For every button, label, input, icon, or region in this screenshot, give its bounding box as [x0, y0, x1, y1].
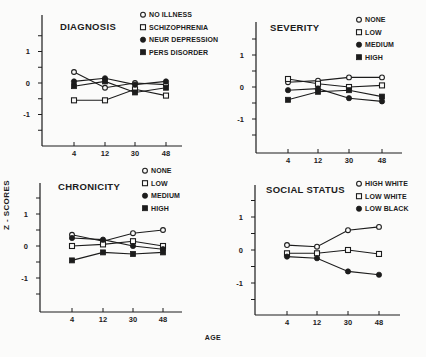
data-point-none: [380, 75, 385, 80]
legend: NO ILLNESSSCHIZOPHRENIANEUR DEPRESSIONPE…: [140, 11, 218, 56]
data-point-low: [380, 83, 385, 88]
data-point-high: [161, 250, 166, 255]
data-point-high: [70, 258, 75, 263]
x-tick-label: 4: [70, 315, 75, 324]
data-point-high-white: [377, 225, 382, 230]
x-tick-label: 48: [162, 149, 170, 158]
y-tick-label: -1: [237, 115, 244, 124]
series-line-low: [288, 79, 382, 87]
panel-severity: 10-14123048SEVERITYNONELOWMEDIUMHIGH: [237, 16, 402, 165]
figure: 10-14123048DIAGNOSISNO ILLNESSSCHIZOPHRE…: [0, 0, 426, 357]
data-point-medium: [285, 88, 290, 93]
series-line-none: [72, 230, 163, 241]
legend: HIGH WHITELOW WHITELOW BLACK: [356, 180, 408, 212]
y-axis-label: Z - SCORES: [2, 180, 11, 230]
legend-marker-none: [143, 168, 148, 173]
x-tick-label: 4: [286, 156, 291, 165]
panel-title: SEVERITY: [270, 22, 320, 33]
data-point-none: [161, 228, 166, 233]
legend-item-pers-disorder: PERS DISORDER: [141, 49, 209, 56]
legend: NONELOWMEDIUMHIGH: [142, 167, 180, 212]
y-tick-label: 0: [24, 242, 28, 251]
data-point-high-white: [346, 228, 351, 233]
legend-label: MEDIUM: [151, 192, 180, 199]
data-point-medium: [100, 237, 105, 242]
legend-label: LOW BLACK: [365, 205, 409, 212]
legend-marker-none: [357, 17, 362, 22]
data-point-schizophrenia: [103, 98, 108, 103]
legend-marker-high-white: [357, 181, 362, 186]
data-point-high: [347, 88, 352, 93]
legend-label: LOW WHITE: [365, 193, 407, 200]
legend-marker-no-illness: [141, 12, 146, 17]
legend-marker-low: [143, 181, 148, 186]
x-tick-label: 30: [129, 315, 137, 324]
data-point-no-illness: [72, 70, 77, 75]
legend-label: MEDIUM: [365, 41, 394, 48]
y-tick-label: 1: [24, 210, 28, 219]
data-point-medium: [379, 99, 384, 104]
x-tick-label: 12: [313, 318, 321, 327]
legend-label: LOW: [365, 29, 382, 36]
data-point-pers-disorder: [103, 79, 108, 84]
legend: NONELOWMEDIUMHIGH: [356, 16, 394, 61]
x-tick-label: 48: [378, 156, 386, 165]
legend-marker-neur-depression: [140, 37, 145, 42]
series-line-schizophrenia: [74, 89, 166, 100]
data-point-high: [380, 94, 385, 99]
legend-marker-high: [357, 55, 362, 60]
legend-marker-high: [143, 206, 148, 211]
y-tick-label: 0: [239, 246, 243, 255]
series-line-high: [72, 252, 163, 260]
legend-label: NEUR DEPRESSION: [149, 36, 218, 43]
data-point-schizophrenia: [72, 98, 77, 103]
data-point-neur-depression: [71, 79, 76, 84]
data-point-low-black: [314, 256, 319, 261]
data-point-low-white: [346, 248, 351, 253]
data-point-neur-depression: [132, 82, 137, 87]
legend-item-low-black: LOW BLACK: [356, 205, 408, 212]
legend-marker-low-white: [357, 194, 362, 199]
legend-label: LOW: [151, 180, 168, 187]
series-line-low-white: [287, 250, 379, 254]
data-point-low: [316, 81, 321, 86]
y-tick-label: -1: [236, 279, 243, 288]
panel-social-status: 10-14123048SOCIAL STATUSHIGH WHITELOW WH…: [236, 180, 408, 327]
data-point-low: [286, 77, 291, 82]
data-point-high-white: [315, 244, 320, 249]
data-point-high: [316, 89, 321, 94]
legend-marker-medium: [356, 42, 361, 47]
panel-diagnosis: 10-14123048DIAGNOSISNO ILLNESSSCHIZOPHRE…: [23, 11, 218, 158]
x-tick-label: 30: [344, 318, 352, 327]
x-tick-label: 12: [99, 315, 107, 324]
data-point-no-illness: [103, 85, 108, 90]
x-tick-label: 4: [72, 149, 77, 158]
data-point-low: [131, 239, 136, 244]
legend-item-no-illness: NO ILLNESS: [141, 11, 193, 18]
x-tick-label: 30: [131, 149, 139, 158]
data-point-low-white: [315, 251, 320, 256]
data-point-medium: [130, 243, 135, 248]
legend-item-medium: MEDIUM: [356, 41, 394, 48]
legend-label: SCHIZOPHRENIA: [149, 24, 208, 31]
y-tick-label: -1: [21, 274, 28, 283]
data-point-pers-disorder: [133, 90, 138, 95]
legend-item-high-white: HIGH WHITE: [357, 180, 409, 187]
x-tick-label: 12: [101, 149, 109, 158]
legend-label: HIGH: [151, 205, 169, 212]
data-point-low-white: [377, 251, 382, 256]
panel-title: DIAGNOSIS: [60, 21, 116, 32]
x-tick-label: 48: [375, 318, 383, 327]
y-tick-label: 1: [239, 213, 243, 222]
x-tick-label: 48: [159, 315, 167, 324]
data-point-schizophrenia: [164, 93, 169, 98]
legend-marker-pers-disorder: [141, 50, 146, 55]
legend-item-none: NONE: [143, 167, 172, 174]
x-tick-label: 12: [314, 156, 322, 165]
data-point-high-white: [285, 243, 290, 248]
x-axis-label: AGE: [205, 334, 221, 341]
legend-item-none: NONE: [357, 16, 386, 23]
x-tick-label: 30: [345, 156, 353, 165]
y-tick-label: 1: [26, 47, 30, 56]
data-point-low: [101, 242, 106, 247]
